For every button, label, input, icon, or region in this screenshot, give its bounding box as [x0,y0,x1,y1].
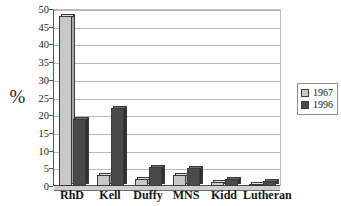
legend-swatch-icon [301,89,309,97]
y-tick-label: 10 [19,147,49,156]
x-tick-label: RhD [53,188,91,203]
legend-label: 1967 [313,88,333,98]
bar-top [75,117,88,120]
bar-group [53,9,91,186]
y-tick-label: 35 [19,58,49,67]
legend-item[interactable]: 1967 [301,87,333,99]
bar-front [73,119,86,186]
x-tick-label: MNS [167,188,205,203]
bar[interactable] [111,108,124,186]
bar-top [227,177,240,180]
legend-label: 1996 [313,100,333,110]
bar-side [124,106,127,184]
bar[interactable] [135,179,148,186]
chart-legend: 1967 1996 [297,83,338,115]
bar-front [111,108,124,186]
y-tick-label: 45 [19,23,49,32]
bar-front [187,168,200,186]
y-tick-label: 15 [19,129,49,138]
bar-top [265,179,278,182]
bar[interactable] [225,179,238,186]
bar[interactable] [211,182,224,186]
legend-item[interactable]: 1996 [301,99,333,111]
y-tick-label: 40 [19,40,49,49]
bar[interactable] [263,181,276,186]
bar[interactable] [97,175,110,186]
bar-front [173,175,186,186]
legend-swatch-icon [301,101,309,109]
bar[interactable] [249,184,262,186]
y-tick-label: 20 [19,111,49,120]
bar[interactable] [173,175,186,186]
bar-group [205,9,243,186]
x-tick-label: Lutheran [243,188,281,203]
bar-top [151,165,164,168]
bar-series-container [53,9,281,186]
x-tick-label: Kidd [205,188,243,203]
y-tick-label: 0 [19,182,49,191]
bar[interactable] [73,119,86,186]
bar-chart: % 05101520253035404550 RhDKellDuffyMNSKi… [0,0,341,206]
bar-top [189,166,202,169]
bar-group [91,9,129,186]
bar-group [243,9,281,186]
bar-group [167,9,205,186]
bar-group [129,9,167,186]
bar-front [135,179,148,186]
y-tick-mark [49,186,53,187]
bar-side [86,117,89,184]
y-tick-label: 30 [19,76,49,85]
x-tick-label: Kell [91,188,129,203]
y-tick-label: 50 [19,5,49,14]
y-tick-label: 25 [19,94,49,103]
bar-top [113,106,126,109]
bar-top [61,14,74,17]
x-tick-label: Duffy [129,188,167,203]
bar-front [59,16,72,186]
bar[interactable] [187,168,200,186]
bar-front [97,175,110,186]
y-tick-label: 5 [19,164,49,173]
bar-front [225,179,238,186]
bar[interactable] [149,167,162,186]
bar-front [149,167,162,186]
bar[interactable] [59,16,72,186]
